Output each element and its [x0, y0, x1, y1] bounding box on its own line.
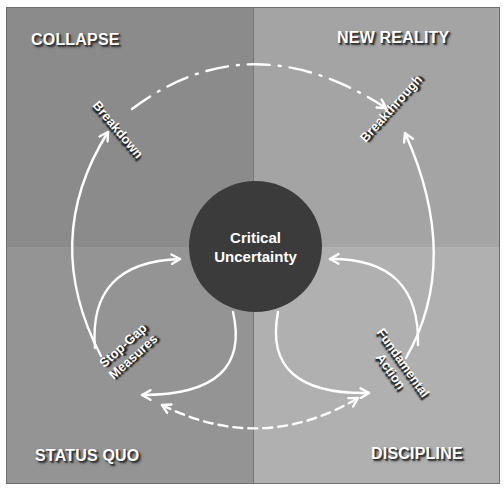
arrow-core-to-fundamental [276, 312, 369, 393]
core-label-line2: Uncertainty [214, 247, 297, 266]
critical-uncertainty-circle: Critical Uncertainty [189, 181, 322, 312]
core-label-line1: Critical [230, 228, 281, 247]
arrow-stopgap-fundamental-dashed [162, 398, 358, 428]
arrow-stopgap-to-breakdown [72, 132, 108, 356]
arrow-breakdown-to-breakthrough [132, 64, 386, 109]
arrow-fundamental-to-breakthrough [405, 133, 434, 358]
